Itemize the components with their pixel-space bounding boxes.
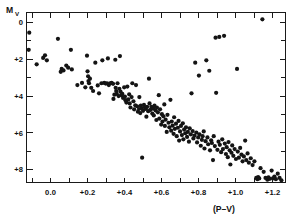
data-point — [140, 156, 144, 160]
data-point — [128, 101, 132, 105]
data-point — [223, 141, 227, 145]
data-point — [247, 161, 251, 165]
data-point — [249, 156, 253, 160]
x-tick-label: +1.0 — [228, 188, 243, 197]
x-tick-label: 0.0 — [45, 188, 56, 197]
data-point — [178, 129, 182, 133]
data-point — [80, 81, 84, 85]
data-point — [215, 148, 219, 152]
data-point — [184, 125, 188, 129]
data-point — [221, 147, 225, 151]
data-point — [214, 91, 218, 95]
data-point — [200, 138, 204, 142]
data-point — [129, 95, 133, 99]
data-point — [176, 119, 180, 123]
data-point — [27, 31, 31, 35]
data-point — [242, 154, 246, 158]
data-point — [189, 91, 193, 95]
data-point — [202, 146, 206, 150]
data-point — [187, 140, 191, 144]
data-point — [87, 81, 91, 85]
data-point — [191, 129, 195, 133]
data-point — [137, 95, 141, 99]
data-point — [158, 107, 162, 111]
y-axis-tick-labels: 0+2+4+6+8 — [14, 18, 24, 174]
y-axis-ticks — [27, 23, 286, 170]
data-point — [162, 102, 166, 106]
data-point — [181, 121, 185, 125]
x-tick-label: +1.2 — [265, 188, 280, 197]
data-point — [228, 162, 232, 166]
data-point — [85, 54, 89, 58]
data-point — [66, 66, 70, 70]
data-point — [170, 119, 174, 123]
data-point — [165, 130, 169, 134]
data-point — [43, 53, 47, 57]
data-point — [113, 58, 117, 62]
data-point — [262, 170, 266, 174]
data-point — [201, 134, 205, 138]
data-point — [213, 36, 217, 40]
data-point — [132, 107, 136, 111]
data-point — [236, 150, 240, 154]
y-axis-label: M — [6, 5, 13, 15]
data-point — [193, 61, 197, 65]
data-point — [222, 34, 226, 38]
data-point — [147, 77, 151, 81]
data-point — [218, 143, 222, 147]
data-point — [205, 135, 209, 139]
data-point — [100, 58, 104, 62]
data-point — [152, 113, 156, 117]
data-point — [111, 82, 115, 86]
data-point — [83, 85, 87, 89]
data-point — [96, 83, 100, 87]
data-point — [181, 137, 185, 141]
data-point — [175, 134, 179, 138]
data-point — [243, 139, 247, 143]
data-point — [130, 81, 134, 85]
data-point — [69, 48, 73, 52]
data-point — [204, 58, 208, 62]
data-point — [225, 145, 229, 149]
data-point — [163, 124, 167, 128]
data-point — [202, 129, 206, 133]
data-point — [195, 140, 199, 144]
y-tick-label: 0 — [19, 18, 23, 27]
data-point — [35, 62, 39, 66]
data-point — [207, 69, 211, 73]
y-tick-label: +6 — [14, 129, 23, 138]
data-point — [128, 105, 132, 109]
data-point — [212, 134, 216, 138]
data-point — [97, 91, 101, 95]
x-tick-label: +0.4 — [117, 188, 133, 197]
x-tick-label: +0.2 — [80, 188, 95, 197]
figure-container: 0.0+0.2+0.4+0.6+0.8+1.0+1.2 0+2+4+6+8 M … — [0, 0, 295, 217]
data-point — [197, 73, 201, 77]
data-point — [61, 68, 65, 72]
data-point — [85, 69, 89, 73]
data-point — [144, 115, 148, 119]
data-point — [157, 116, 161, 120]
data-point — [75, 83, 79, 87]
x-axis-label: (P–V) — [213, 204, 235, 214]
data-point — [245, 151, 249, 155]
data-point — [270, 168, 274, 172]
data-point — [206, 142, 210, 146]
x-axis-tick-labels: 0.0+0.2+0.4+0.6+0.8+1.0+1.2 — [45, 188, 280, 197]
data-point — [252, 159, 256, 163]
y-tick-label: +8 — [14, 165, 23, 174]
y-tick-label: +2 — [14, 55, 23, 64]
data-point — [172, 115, 176, 119]
data-point — [276, 172, 280, 176]
data-point — [177, 139, 181, 143]
data-point — [274, 177, 278, 181]
data-point — [88, 77, 92, 81]
data-point — [93, 61, 97, 65]
data-point — [257, 176, 261, 180]
data-point — [211, 158, 215, 162]
x-tick-label: +0.8 — [191, 188, 206, 197]
data-point — [115, 81, 119, 85]
data-point — [134, 83, 138, 87]
data-point — [27, 48, 31, 52]
data-point — [131, 99, 135, 103]
